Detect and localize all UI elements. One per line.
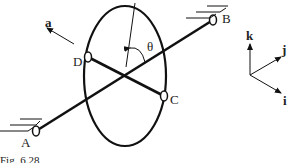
label-B: B	[222, 12, 231, 25]
axis-label-j: j	[282, 43, 286, 56]
radial-line	[126, 3, 135, 67]
axis-label-i: i	[283, 94, 287, 107]
diagram-svg	[0, 0, 292, 163]
label-C: C	[170, 93, 179, 106]
label-theta: θ	[147, 40, 153, 53]
bearing-D	[85, 52, 92, 62]
acceleration-arrow	[47, 28, 74, 44]
figure-caption: Fig. 6.28	[0, 155, 39, 163]
label-a: a	[45, 16, 52, 29]
coordinate-axes	[250, 44, 281, 93]
bearing-C	[161, 91, 168, 101]
axis-label-k: k	[246, 29, 253, 42]
theta-arc	[130, 48, 145, 62]
label-D: D	[73, 55, 82, 68]
label-A: A	[21, 136, 30, 149]
figure-canvas: a D θ B C A k j i Fig. 6.28	[0, 0, 292, 163]
